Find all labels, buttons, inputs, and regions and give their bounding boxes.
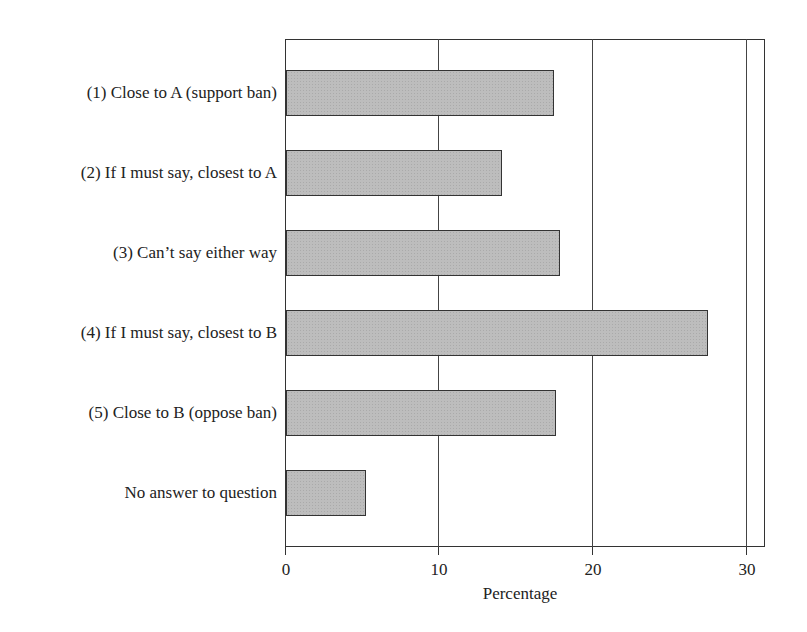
- x-tick-label: 30: [739, 560, 756, 580]
- bar: [286, 150, 502, 196]
- bar: [286, 230, 560, 276]
- x-tick-10: [438, 547, 439, 555]
- x-tick-0: [285, 547, 286, 555]
- bar: [286, 70, 554, 116]
- category-label: (5) Close to B (oppose ban): [89, 403, 277, 423]
- category-label: No answer to question: [124, 483, 277, 503]
- category-label: (2) If I must say, closest to A: [81, 163, 277, 183]
- x-tick-label: 10: [431, 560, 448, 580]
- x-tick-label: 0: [282, 560, 291, 580]
- x-tick-label: 20: [585, 560, 602, 580]
- x-tick-30: [746, 547, 747, 555]
- bar-chart: 0 10 20 30 Percentage (1) Close to A (su…: [0, 0, 807, 632]
- category-label: (4) If I must say, closest to B: [81, 323, 277, 343]
- category-label: (1) Close to A (support ban): [87, 83, 277, 103]
- bar: [286, 310, 708, 356]
- x-axis-label: Percentage: [483, 584, 558, 604]
- gridline-20: [592, 39, 593, 547]
- gridline-30: [746, 39, 747, 547]
- bar: [286, 390, 556, 436]
- category-label: (3) Can’t say either way: [113, 243, 277, 263]
- x-tick-20: [592, 547, 593, 555]
- bar: [286, 470, 366, 516]
